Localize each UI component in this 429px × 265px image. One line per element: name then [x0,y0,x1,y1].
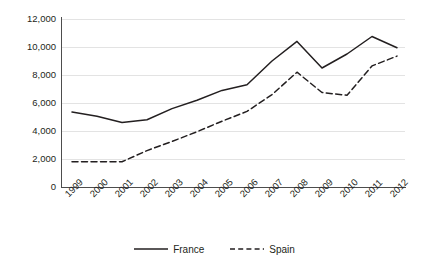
y-axis-tick-label: 2,000 [0,154,56,164]
legend-label: Spain [269,244,295,255]
y-axis-tick-label: 12,000 [0,14,56,24]
series-line-spain [72,56,397,162]
series-lines [62,19,405,187]
plot-area [62,19,405,187]
line-chart: 02,0004,0006,0008,00010,00012,000 199920… [0,0,429,265]
y-axis-tick-label: 10,000 [0,42,56,52]
legend-item-france[interactable]: France [134,244,204,255]
y-axis-tick-label: 4,000 [0,126,56,136]
legend-label: France [173,244,204,255]
series-line-france [72,37,397,123]
y-axis-tick-label: 0 [0,182,56,192]
chart-legend: FranceSpain [0,240,429,258]
dashed-line-icon [230,245,264,253]
solid-line-icon [134,245,168,253]
y-axis-tick-label: 8,000 [0,70,56,80]
legend-item-spain[interactable]: Spain [230,244,295,255]
y-axis-tick-labels: 02,0004,0006,0008,00010,00012,000 [0,0,56,265]
y-axis-line [61,17,62,188]
y-axis-tick-label: 6,000 [0,98,56,108]
